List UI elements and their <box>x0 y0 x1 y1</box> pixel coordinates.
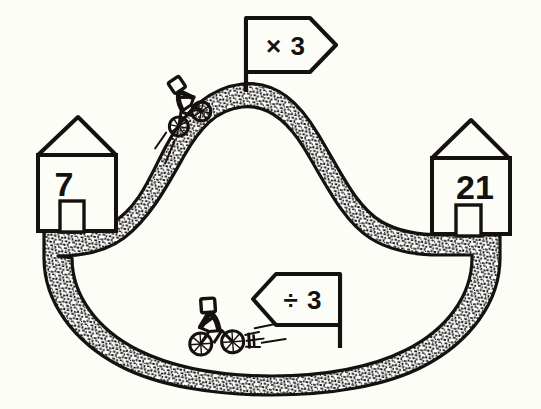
start-house-roof <box>38 117 116 155</box>
divide-sign[interactable]: ÷ 3 <box>253 274 340 348</box>
multiply-sign-label: × 3 <box>266 31 306 61</box>
start-house[interactable]: 7 <box>38 117 116 232</box>
end-house[interactable]: 21 <box>432 120 510 236</box>
multiply-sign[interactable]: × 3 <box>246 18 336 92</box>
divide-sign-label: ÷ 3 <box>284 285 323 315</box>
end-house-door[interactable] <box>456 205 481 236</box>
end-house-label: 21 <box>456 168 494 206</box>
valley-rider-helmet <box>201 298 216 313</box>
start-house-door[interactable] <box>60 201 84 232</box>
road-surface <box>44 84 500 395</box>
road-band <box>44 84 500 395</box>
diagram-canvas: 7 21 × 3 ÷ 3 <box>0 0 541 409</box>
end-house-roof <box>432 120 509 158</box>
start-house-label: 7 <box>55 165 74 203</box>
scene-svg: 7 21 × 3 ÷ 3 <box>0 0 541 409</box>
